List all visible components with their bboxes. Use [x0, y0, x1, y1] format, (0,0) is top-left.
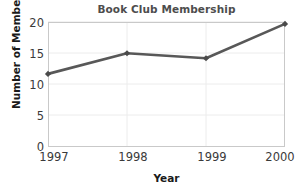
- data-series-number-of-members: [45, 21, 288, 77]
- chart-figure: Book Club Membership Number of Members Y…: [0, 0, 301, 192]
- plot-area: [0, 0, 301, 192]
- series-markers: [45, 21, 288, 77]
- series-line: [48, 24, 285, 74]
- data-point: [45, 71, 51, 77]
- data-point: [124, 50, 130, 56]
